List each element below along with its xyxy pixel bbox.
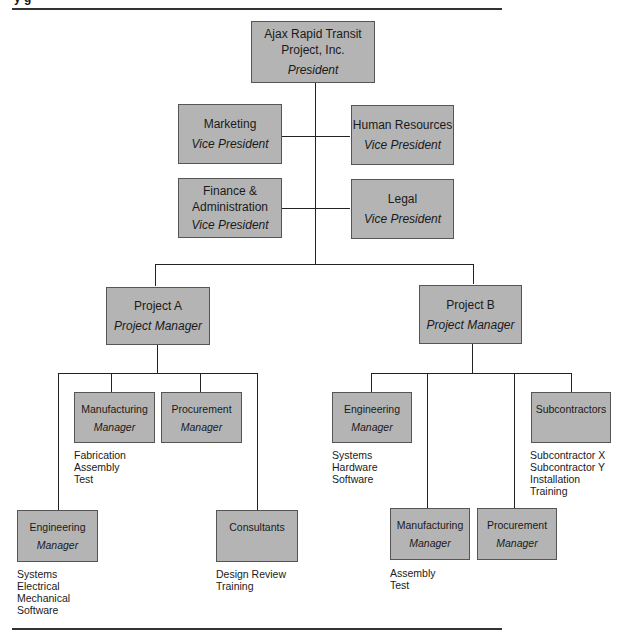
a-manufacturing-box[interactable]: Manufacturing Manager [74, 392, 155, 443]
president-org-line2: Project, Inc. [281, 42, 344, 58]
unit-name: Subcontractors [536, 403, 607, 416]
project-role: Project Manager [114, 318, 202, 334]
project-a-bar [58, 373, 258, 374]
note: Assembly [390, 567, 436, 579]
unit-name: Engineering [344, 403, 400, 416]
spine-line [315, 82, 316, 264]
vp-name: Human Resources [353, 117, 452, 133]
note: Assembly [74, 461, 126, 473]
president-org-line1: Ajax Rapid Transit [264, 26, 361, 42]
note: Test [390, 579, 436, 591]
note: Installation [530, 473, 605, 485]
vp-role: Vice President [364, 137, 441, 153]
note: Hardware [332, 461, 378, 473]
vp-finance-box[interactable]: Finance & Administration Vice President [178, 178, 282, 238]
b-engineering-box[interactable]: Engineering Manager [332, 392, 412, 443]
vp-role: Vice President [191, 217, 268, 233]
unit-name: Engineering [29, 521, 85, 534]
note: Systems [17, 568, 70, 580]
a-procurement-box[interactable]: Procurement Manager [161, 392, 242, 443]
header-title-fragment: y g [14, 0, 31, 5]
b-subcontractors-notes: Subcontractor X Subcontractor Y Installa… [530, 449, 605, 497]
president-box[interactable]: Ajax Rapid Transit Project, Inc. Preside… [251, 21, 375, 83]
b-subcontractors-box[interactable]: Subcontractors [531, 392, 611, 443]
unit-role: Manager [409, 537, 450, 550]
b-proc-drop [514, 373, 515, 510]
b-mfg-drop [427, 373, 428, 510]
b-manufacturing-notes: Assembly Test [390, 567, 436, 591]
a-engineering-box[interactable]: Engineering Manager [17, 510, 98, 562]
vp-marketing-box[interactable]: Marketing Vice President [178, 104, 282, 164]
top-rule [12, 8, 502, 10]
vp-name: Marketing [204, 116, 257, 132]
vp-role: Vice President [364, 211, 441, 227]
unit-name: Manufacturing [397, 519, 464, 532]
vp-role: Vice President [191, 136, 268, 152]
a-proc-drop [200, 373, 201, 393]
project-b-box[interactable]: Project B Project Manager [419, 285, 522, 344]
unit-name: Consultants [229, 521, 284, 534]
note: Training [216, 580, 286, 592]
note: Electrical [17, 580, 70, 592]
president-role: President [288, 62, 339, 78]
note: Software [17, 604, 70, 616]
unit-name: Manufacturing [81, 403, 148, 416]
note: Test [74, 473, 126, 485]
note: Subcontractor Y [530, 461, 605, 473]
vp-name-line1: Finance & [203, 183, 257, 199]
vp-name: Legal [388, 191, 417, 207]
project-name: Project A [134, 298, 182, 314]
unit-role: Manager [94, 421, 135, 434]
project-a-stem [157, 343, 158, 373]
a-mfg-drop [111, 373, 112, 393]
note: Training [530, 485, 605, 497]
note: Systems [332, 449, 378, 461]
a-consultants-box[interactable]: Consultants [216, 510, 298, 562]
note: Subcontractor X [530, 449, 605, 461]
b-eng-drop [371, 373, 372, 393]
a-manufacturing-notes: Fabrication Assembly Test [74, 449, 126, 485]
vp-connector-2 [282, 208, 350, 209]
project-b-drop [473, 264, 474, 284]
b-engineering-notes: Systems Hardware Software [332, 449, 378, 485]
project-a-drop [155, 264, 156, 286]
note: Fabrication [74, 449, 126, 461]
project-role: Project Manager [426, 317, 514, 333]
b-procurement-box[interactable]: Procurement Manager [477, 508, 557, 560]
unit-role: Manager [351, 421, 392, 434]
unit-name: Procurement [171, 403, 231, 416]
note: Mechanical [17, 592, 70, 604]
note: Design Review [216, 568, 286, 580]
unit-name: Procurement [487, 519, 547, 532]
project-b-bar [371, 373, 572, 374]
project-bar [155, 264, 473, 265]
b-sub-drop [571, 373, 572, 393]
project-name: Project B [446, 297, 495, 313]
unit-role: Manager [181, 421, 222, 434]
a-engineering-notes: Systems Electrical Mechanical Software [17, 568, 70, 616]
unit-role: Manager [496, 537, 537, 550]
a-cons-drop [257, 373, 258, 510]
vp-connector-1 [282, 136, 350, 137]
a-eng-drop [58, 373, 59, 510]
project-a-box[interactable]: Project A Project Manager [106, 287, 210, 345]
vp-legal-box[interactable]: Legal Vice President [351, 179, 454, 239]
unit-role: Manager [37, 539, 78, 552]
vp-hr-box[interactable]: Human Resources Vice President [351, 105, 454, 165]
note: Software [332, 473, 378, 485]
vp-name-line2: Administration [192, 199, 268, 215]
bottom-rule [12, 628, 502, 630]
project-b-stem [472, 344, 473, 373]
a-consultants-notes: Design Review Training [216, 568, 286, 592]
b-manufacturing-box[interactable]: Manufacturing Manager [390, 508, 470, 560]
